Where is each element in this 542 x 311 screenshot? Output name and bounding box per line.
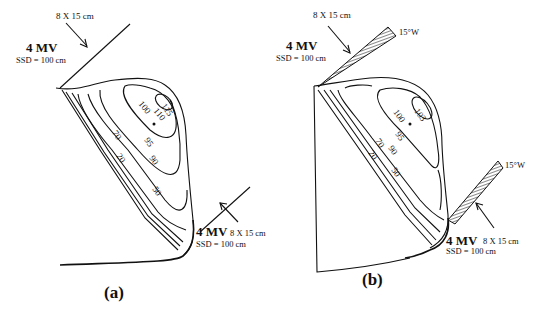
panel-a-skin [60,220,194,265]
panel-b-bottom-field-size: 8 X 15 cm [483,236,519,246]
panel-a-top-arrow-icon [66,23,87,46]
isodose-label: 100 [391,107,407,124]
panel-b-bottom-wedge-icon [448,161,503,224]
panel-a: 8 X 15 cm 4 MV SSD = 100 cm 115 110 100 … [16,11,266,302]
panel-b-top-arrow-icon [328,26,350,52]
panel-b-top-field-size: 8 X 15 cm [313,10,351,20]
panel-a-label: (a) [104,283,124,302]
panel-b-label: (b) [362,270,383,289]
isodose-95-right [438,170,441,210]
isodose-label: 90 [147,153,161,167]
isodose-100 [378,88,439,168]
panel-a-top-ssd: SSD = 100 cm [16,55,66,65]
panel-a-top-beam-edge [60,24,130,88]
isodose-label: 90 [386,143,400,157]
arrowhead-icon [343,45,350,53]
isodose-label: 95 [142,135,156,149]
isodose-label: 95 [393,129,407,143]
isodose-label: 20 [366,148,380,162]
panel-b-bottom-arrow-icon [476,203,494,228]
panel-b: 8 X 15 cm 4 MV SSD = 100 cm 15°W 15°W 10… [276,10,525,289]
panel-a-top-energy: 4 MV [26,40,58,55]
panel-b-top-ssd: SSD = 100 cm [276,53,326,63]
isodose-label: 100 [136,99,153,116]
isodose-label: 70 [110,128,124,142]
panel-a-bottom-ssd: SSD = 100 cm [196,239,246,249]
reference-point [153,123,156,126]
panel-b-bottom-wedge-label: 15°W [505,160,525,170]
reference-point [409,123,412,126]
panel-a-top-field-size: 8 X 15 cm [56,11,94,21]
panel-b-bottom-ssd: SSD = 100 cm [446,246,496,256]
isodose-95-top [345,85,372,88]
isodose-label: 70 [373,136,387,150]
panel-b-top-energy: 4 MV [286,38,318,53]
panel-a-bottom-field-size: 8 X 15 cm [230,228,266,238]
panel-a-bottom-energy: 4 MV [196,224,228,239]
isodose-label: 50 [389,165,403,179]
panel-b-body-outline [314,78,448,248]
panel-b-top-wedge-label: 15°W [399,27,419,37]
